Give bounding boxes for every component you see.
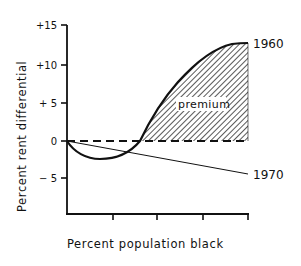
- y-tick-label-10: +10: [36, 60, 57, 71]
- y-tick-label-0: 0: [51, 136, 57, 147]
- y-axis-title: Percent rent differential: [15, 61, 29, 212]
- series-1970-label: 1970: [253, 168, 284, 182]
- premium-label: premium: [178, 98, 230, 111]
- premium-hatch-area: [140, 40, 250, 142]
- y-tick-label-5: + 5: [39, 98, 57, 109]
- y-tick-label-m5: − 5: [39, 173, 57, 184]
- series-1960-label: 1960: [253, 37, 284, 51]
- rent-differential-chart: premium +15 +10 + 5 0 − 5 1960 1970 Perc…: [0, 0, 301, 266]
- y-tick-label-15: +15: [36, 20, 57, 31]
- x-axis-title: Percent population black: [67, 237, 224, 251]
